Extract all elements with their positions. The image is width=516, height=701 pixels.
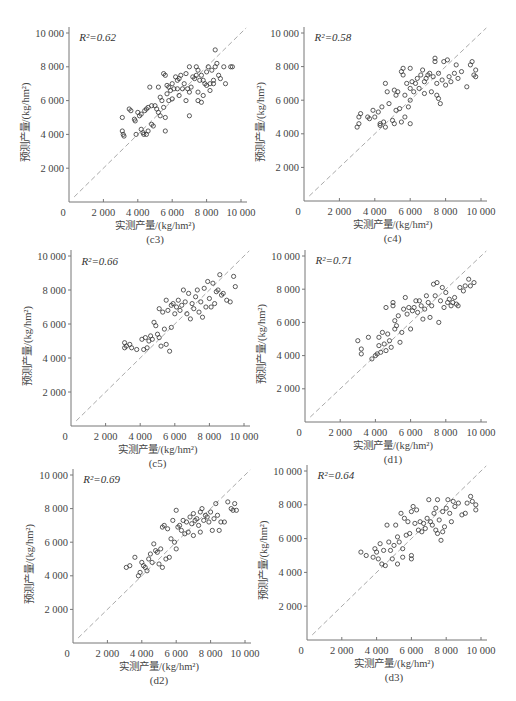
data-point bbox=[228, 300, 232, 304]
data-point bbox=[413, 521, 417, 525]
data-point bbox=[409, 327, 413, 331]
data-point bbox=[215, 61, 219, 65]
data-point bbox=[357, 122, 361, 126]
data-point bbox=[415, 76, 419, 80]
data-point bbox=[444, 506, 448, 510]
data-point bbox=[194, 295, 198, 299]
panel-label: (c3) bbox=[146, 233, 164, 246]
y-tick-label: 2 000 bbox=[276, 383, 300, 394]
data-point bbox=[232, 274, 236, 278]
y-axis-title: 预测产量/(kg/hm²) bbox=[23, 524, 36, 604]
x-tick-label: 6 000 bbox=[164, 648, 188, 659]
one-to-one-line bbox=[76, 251, 249, 421]
data-point bbox=[159, 547, 163, 551]
data-point bbox=[437, 320, 441, 324]
data-point bbox=[366, 335, 370, 339]
data-point bbox=[444, 290, 448, 294]
data-point bbox=[160, 99, 164, 103]
data-point bbox=[382, 120, 386, 124]
data-point bbox=[449, 80, 453, 84]
data-point bbox=[415, 508, 419, 512]
data-point bbox=[378, 542, 382, 546]
x-tick-label: 8 000 bbox=[434, 427, 458, 438]
data-point bbox=[182, 82, 186, 86]
data-point bbox=[188, 515, 192, 519]
x-axis-title: 实测产量/(kg/hm²) bbox=[118, 443, 198, 456]
y-axis-title: 预测产量/(kg/hm²) bbox=[255, 304, 268, 384]
one-to-one-line bbox=[78, 470, 250, 638]
data-point bbox=[375, 550, 379, 554]
data-point bbox=[387, 102, 391, 106]
r-squared-annotation: R²=0.71 bbox=[315, 254, 353, 266]
data-point bbox=[430, 523, 434, 527]
data-point bbox=[169, 325, 173, 329]
x-tick-label: 4 000 bbox=[130, 648, 154, 659]
x-tick-label: 4 000 bbox=[364, 427, 388, 438]
data-point bbox=[474, 68, 478, 72]
data-point bbox=[162, 105, 166, 109]
data-point bbox=[202, 518, 206, 522]
data-point bbox=[187, 65, 191, 69]
data-point bbox=[168, 349, 172, 353]
data-point bbox=[465, 85, 469, 89]
data-point bbox=[204, 305, 208, 309]
data-point bbox=[199, 73, 203, 77]
data-point bbox=[164, 342, 168, 346]
data-point bbox=[199, 300, 203, 304]
data-point bbox=[392, 122, 396, 126]
data-point bbox=[456, 76, 460, 80]
y-tick-label: 2 000 bbox=[275, 162, 299, 173]
data-point bbox=[474, 503, 478, 507]
data-point bbox=[454, 63, 458, 67]
x-tick-label: 8 000 bbox=[195, 207, 219, 218]
data-point bbox=[191, 511, 195, 515]
data-point bbox=[437, 518, 441, 522]
data-point bbox=[456, 501, 460, 505]
data-point bbox=[196, 68, 200, 72]
data-point bbox=[188, 317, 192, 321]
x-tick-label: 6 000 bbox=[400, 645, 424, 656]
data-point bbox=[145, 346, 149, 350]
data-point bbox=[174, 305, 178, 309]
x-tick-label: 4 000 bbox=[126, 207, 150, 218]
data-point bbox=[408, 66, 412, 70]
data-point bbox=[133, 555, 137, 559]
data-point bbox=[376, 110, 380, 114]
data-point bbox=[382, 342, 386, 346]
data-point bbox=[371, 555, 375, 559]
x-axis-title: 实测产量/(kg/hm²) bbox=[354, 657, 434, 670]
data-point bbox=[170, 82, 174, 86]
y-tick-label: 8 000 bbox=[42, 285, 66, 296]
data-point bbox=[412, 90, 416, 94]
scatter-panel-c4: 02 0004 0006 0008 00010 0002 0004 0006 0… bbox=[254, 27, 495, 245]
data-point bbox=[389, 345, 393, 349]
y-axis-title: 预测产量/(kg/hm²) bbox=[21, 306, 34, 386]
y-tick-label: 4 000 bbox=[276, 350, 300, 361]
data-point bbox=[173, 312, 177, 316]
y-axis-title: 预测产量/(kg/hm²) bbox=[254, 82, 267, 162]
data-point bbox=[385, 523, 389, 527]
data-point bbox=[148, 85, 152, 89]
x-tick-label: 8 000 bbox=[199, 648, 223, 659]
data-point bbox=[433, 294, 437, 298]
data-point bbox=[417, 86, 421, 90]
x-tick-label: 8 000 bbox=[198, 431, 222, 442]
data-point bbox=[163, 129, 167, 133]
data-point bbox=[465, 501, 469, 505]
data-point bbox=[380, 330, 384, 334]
y-tick-label: 2 000 bbox=[42, 387, 66, 398]
x-tick-label: 0 bbox=[296, 427, 301, 438]
data-point bbox=[394, 523, 398, 527]
y-tick-label: 8 000 bbox=[278, 499, 302, 510]
data-point bbox=[207, 296, 211, 300]
data-point bbox=[420, 530, 424, 534]
data-point bbox=[166, 308, 170, 312]
data-point bbox=[448, 511, 452, 515]
y-tick-label: 8 000 bbox=[276, 284, 300, 295]
data-point bbox=[422, 521, 426, 525]
x-tick-label: 6 000 bbox=[163, 431, 187, 442]
data-point bbox=[380, 105, 384, 109]
data-point bbox=[148, 552, 152, 556]
data-point bbox=[135, 347, 139, 351]
data-point bbox=[200, 507, 204, 511]
